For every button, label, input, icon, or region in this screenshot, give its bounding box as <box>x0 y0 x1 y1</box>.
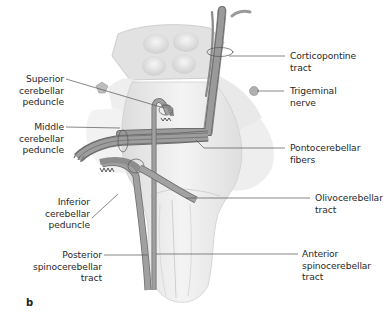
label-anterior-spinocerebellar-tract: Anterior spinocerebellar tract <box>302 248 371 283</box>
label-olivocerebellar-tract: Olivocerebellar tract <box>315 192 383 215</box>
label-trigeminal-nerve: Trigeminal nerve <box>290 85 337 108</box>
label-inferior-cerebellar-peduncle: Inferior cerebellar peduncle <box>24 196 90 231</box>
label-posterior-spinocerebellar-tract: Posterior spinocerebellar tract <box>24 249 102 284</box>
label-pontocerebellar-fibers: Pontocerebellar fibers <box>290 142 360 165</box>
label-middle-cerebellar-peduncle: Middle cerebellar peduncle <box>4 121 64 156</box>
label-superior-cerebellar-peduncle: Superior cerebellar peduncle <box>4 73 64 108</box>
label-corticopontine-tract: Corticopontine tract <box>290 50 356 73</box>
panel-label: b <box>26 297 33 308</box>
